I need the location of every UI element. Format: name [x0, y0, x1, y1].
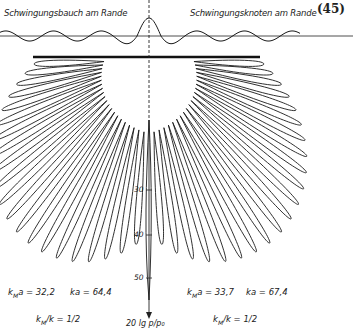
- axis-label: 20 lg p/p₀: [126, 319, 165, 328]
- right-title: Schwingungsknoten am Rande: [190, 8, 316, 18]
- radiation-lobe: [105, 128, 135, 259]
- equation-number: (45): [317, 2, 345, 16]
- radiation-lobe: [164, 128, 194, 259]
- right-kMa: kMa = 33,7: [187, 287, 234, 299]
- left-ka: ka = 64,4: [70, 287, 112, 297]
- radiation-lobe: [154, 132, 164, 244]
- tick-label-50: 50: [134, 273, 144, 282]
- right-ka: ka = 67,4: [246, 287, 288, 297]
- tick-label-30: 30: [134, 185, 144, 194]
- radiation-lobes: [0, 60, 307, 300]
- left-kMa: kMa = 32,2: [8, 287, 55, 299]
- plate-vibration-profile: [0, 18, 353, 44]
- radiation-lobe: [0, 97, 105, 189]
- right-ratio: kM/k = 1/2: [213, 314, 257, 326]
- tick-label-40: 40: [134, 230, 144, 239]
- left-ratio: kM/k = 1/2: [36, 314, 80, 326]
- directivity-diagram: [0, 0, 353, 332]
- left-title: Schwingungsbauch am Rande: [4, 8, 127, 18]
- radiation-lobe: [194, 92, 306, 172]
- radiation-lobe: [196, 84, 305, 140]
- axis-arrow-icon: [146, 312, 152, 319]
